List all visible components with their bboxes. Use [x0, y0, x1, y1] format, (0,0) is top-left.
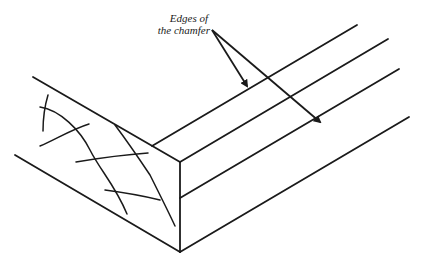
beam-outline: [15, 25, 409, 252]
end-face-bottom-edge: [15, 155, 180, 252]
arrow-to-upper-chamfer-edge: [212, 30, 247, 86]
wood-grain-lines: [40, 95, 175, 226]
end-face-top-edge: [33, 77, 180, 162]
diagram-canvas: Edges of the chamfer: [0, 0, 424, 265]
arrow-to-lower-chamfer-edge: [212, 30, 320, 122]
bottom-edge: [180, 117, 409, 252]
annotation-arrows: [212, 30, 320, 122]
chamfer-edge-lower: [180, 69, 399, 198]
chamfer-diagram: [0, 0, 424, 265]
annotation-label-line2: the chamfer: [120, 24, 210, 37]
chamfer-edge-upper: [180, 39, 388, 162]
top-back-edge: [152, 25, 357, 146]
